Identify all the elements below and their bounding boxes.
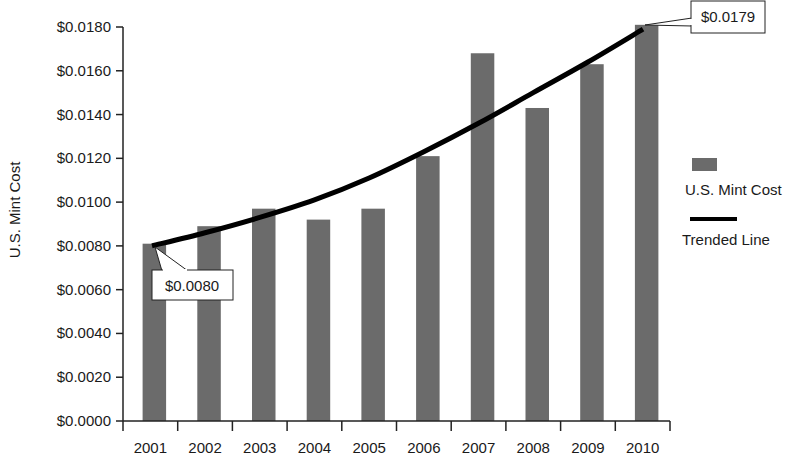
y-axis-ticks: $0.0000$0.0020$0.0040$0.0060$0.0080$0.01…: [57, 18, 123, 429]
x-tick-label: 2010: [626, 439, 659, 456]
y-axis-title: U.S. Mint Cost: [6, 161, 23, 259]
trend-line: [152, 29, 643, 246]
y-tick-label: $0.0140: [57, 106, 111, 123]
callout-end: $0.0179: [645, 1, 765, 33]
x-tick-label: 2009: [571, 439, 604, 456]
x-axis-ticks: 2001200220032004200520062007200820092010: [123, 421, 670, 456]
legend-bar-swatch: [692, 158, 717, 171]
y-tick-label: $0.0020: [57, 368, 111, 385]
y-tick-label: $0.0100: [57, 193, 111, 210]
bar: [416, 156, 440, 421]
legend: U.S. Mint Cost Trended Line: [682, 158, 783, 248]
bar-series: [143, 25, 659, 421]
x-tick-label: 2001: [134, 439, 167, 456]
legend-bar-label: U.S. Mint Cost: [685, 181, 783, 198]
bar: [307, 220, 331, 421]
legend-line-label: Trended Line: [682, 231, 770, 248]
bar: [580, 64, 604, 421]
y-tick-label: $0.0120: [57, 149, 111, 166]
callout-start: $0.0080: [152, 247, 233, 300]
bar-chart: $0.0000$0.0020$0.0040$0.0060$0.0080$0.01…: [0, 0, 806, 458]
bar: [361, 209, 385, 421]
bar: [635, 25, 659, 421]
bar: [252, 209, 276, 421]
x-tick-label: 2004: [298, 439, 331, 456]
x-tick-label: 2007: [462, 439, 495, 456]
x-tick-label: 2008: [517, 439, 550, 456]
bar: [526, 108, 550, 421]
x-tick-label: 2003: [243, 439, 276, 456]
y-tick-label: $0.0000: [57, 412, 111, 429]
callout-start-text: $0.0080: [165, 277, 219, 294]
y-tick-label: $0.0080: [57, 237, 111, 254]
y-tick-label: $0.0180: [57, 18, 111, 35]
bar: [471, 53, 495, 421]
y-tick-label: $0.0160: [57, 62, 111, 79]
callout-end-text: $0.0179: [701, 8, 755, 25]
trend-line-series: [152, 29, 643, 246]
x-tick-label: 2006: [407, 439, 440, 456]
bar: [197, 226, 221, 421]
y-tick-label: $0.0040: [57, 324, 111, 341]
y-tick-label: $0.0060: [57, 281, 111, 298]
x-tick-label: 2002: [188, 439, 221, 456]
x-tick-label: 2005: [352, 439, 385, 456]
